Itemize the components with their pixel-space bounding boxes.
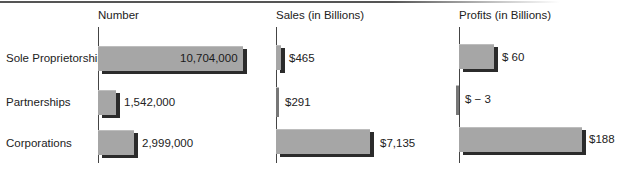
sales-bar-partnerships [276, 87, 279, 117]
row-label-sole-proprietorships: Sole Proprietorships [6, 52, 110, 64]
profits-value-partnerships: $ − 3 [465, 93, 491, 105]
sales-value-sole: $465 [289, 52, 315, 64]
header-sales: Sales (in Billions) [276, 9, 364, 21]
number-value-corporations: 2,999,000 [142, 137, 193, 149]
profits-bar-sole [459, 44, 494, 69]
header-profits: Profits (in Billions) [459, 9, 551, 21]
header-number: Number [98, 9, 139, 21]
number-value-partnerships: 1,542,000 [124, 96, 175, 108]
profits-value-corporations: $188 [589, 133, 615, 145]
top-rule [0, 1, 560, 3]
sales-value-partnerships: $291 [285, 96, 311, 108]
sales-value-corporations: $7,135 [380, 137, 415, 149]
sales-bar-sole [276, 45, 281, 70]
profits-value-sole: $ 60 [502, 51, 524, 63]
number-value-sole: 10,704,000 [180, 52, 238, 64]
profits-bar-partnerships [456, 85, 459, 115]
row-label-partnerships: Partnerships [6, 96, 71, 108]
number-bar-partnerships [98, 90, 116, 115]
profits-bar-corporations [459, 127, 582, 152]
row-label-corporations: Corporations [6, 137, 72, 149]
sales-bar-corporations [276, 129, 370, 154]
number-bar-corporations [98, 130, 134, 155]
